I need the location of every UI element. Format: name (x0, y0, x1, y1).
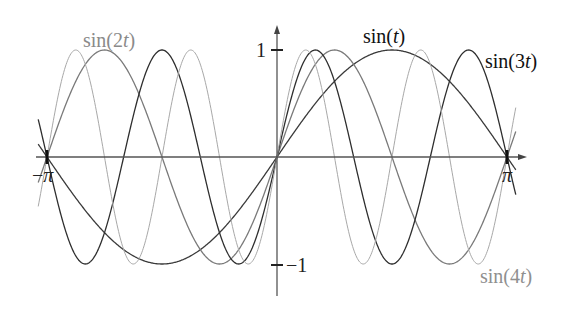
x-axis-arrow-icon (518, 154, 527, 160)
x-tick-label-pi: π (502, 165, 512, 185)
label-sin-2t: sin(2t) (83, 30, 135, 50)
sine-harmonics-chart: sin(t) sin(2t) sin(3t) sin(4t) 1 −1 −π π (0, 0, 577, 312)
label-sin-4t: sin(4t) (480, 266, 532, 286)
label-sin-t: sin(t) (363, 26, 405, 46)
y-tick-label-neg1: −1 (286, 255, 307, 275)
y-axis-arrow-icon (274, 25, 280, 34)
label-sin-3t: sin(3t) (485, 51, 537, 71)
y-tick-label-1: 1 (256, 40, 266, 60)
x-tick-label-neg-pi: −π (32, 165, 53, 185)
